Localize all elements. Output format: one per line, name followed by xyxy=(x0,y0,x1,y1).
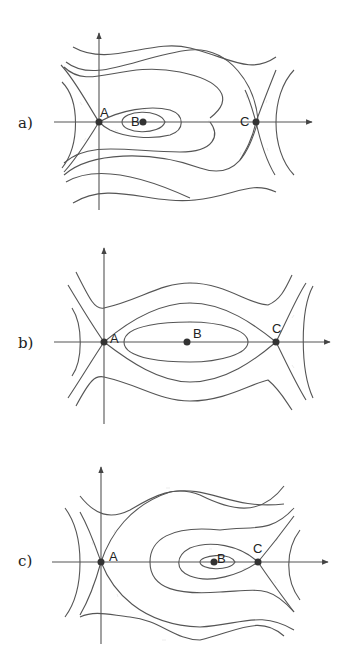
point-label-c: C xyxy=(253,541,262,556)
panel-b: b) A B C xyxy=(18,248,330,424)
panel-a: a) xyxy=(18,33,312,210)
equilibrium-point-b xyxy=(140,119,147,126)
trajectories-a xyxy=(61,46,294,203)
flow-arrows-c xyxy=(92,488,278,640)
phase-portraits-figure: a) xyxy=(0,0,351,672)
equilibrium-point-c xyxy=(253,119,260,126)
equilibrium-point-a xyxy=(101,339,108,346)
equilibrium-point-c xyxy=(255,559,262,566)
equilibrium-point-c xyxy=(273,339,280,346)
point-label-b: B xyxy=(131,114,140,129)
point-label-b: B xyxy=(193,326,202,341)
panel-label-b: b) xyxy=(18,334,33,352)
point-label-c: C xyxy=(240,114,249,129)
equilibrium-point-a xyxy=(98,559,105,566)
point-label-a: A xyxy=(100,105,109,120)
point-label-a: A xyxy=(109,549,118,564)
point-label-c: C xyxy=(272,321,281,336)
panel-c: c) xyxy=(18,467,328,644)
panel-label-c: c) xyxy=(18,552,32,570)
equilibrium-point-b xyxy=(184,339,191,346)
point-label-a: A xyxy=(110,331,119,346)
panel-label-a: a) xyxy=(18,114,33,132)
point-label-b: B xyxy=(217,551,226,566)
